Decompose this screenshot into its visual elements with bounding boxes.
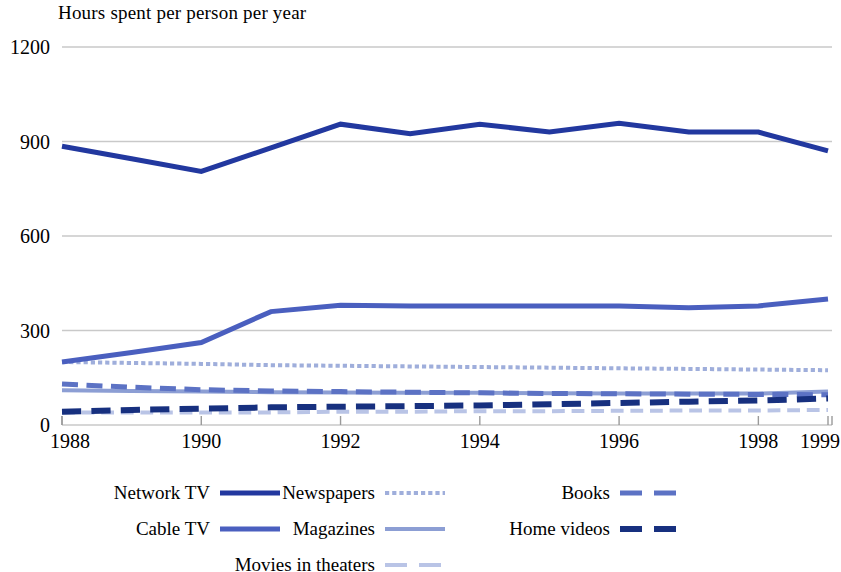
plot-area (0, 0, 841, 432)
legend-swatch-books (620, 484, 680, 502)
series-line-movies-in-theaters (62, 410, 828, 413)
x-tick-label: 1994 (460, 430, 500, 453)
legend-item-newspapers[interactable]: Newspapers (195, 478, 445, 508)
x-tick-label: 1990 (181, 430, 221, 453)
legend-swatch-newspapers (385, 484, 445, 502)
legend-swatch-home-videos (620, 520, 680, 538)
legend-label-home-videos: Home videos (509, 518, 610, 540)
chart-container: Hours spent per person per year 03006009… (0, 0, 841, 572)
x-tick-label: 1992 (321, 430, 361, 453)
chart-legend: Network TVCable TVNewspapersMagazinesMov… (0, 478, 841, 572)
legend-item-books[interactable]: Books (450, 478, 680, 508)
legend-item-home-videos[interactable]: Home videos (450, 514, 680, 544)
legend-label-magazines: Magazines (293, 518, 375, 540)
legend-label-newspapers: Newspapers (282, 482, 375, 504)
legend-swatch-movies-in-theaters (385, 556, 445, 572)
legend-item-magazines[interactable]: Magazines (195, 514, 445, 544)
series-line-network-tv (62, 123, 828, 171)
x-tick-label: 1996 (599, 430, 639, 453)
series-line-newspapers (62, 362, 828, 370)
legend-item-movies-in-theaters[interactable]: Movies in theaters (195, 550, 445, 572)
x-axis-label-group: 1988199019921994199619981999 (0, 430, 841, 464)
x-tick-label: 1999 (800, 430, 840, 453)
legend-label-movies-in-theaters: Movies in theaters (235, 554, 375, 572)
legend-swatch-magazines (385, 520, 445, 538)
x-tick-label: 1988 (50, 430, 90, 453)
x-tick-label: 1998 (738, 430, 778, 453)
legend-label-books: Books (561, 482, 610, 504)
